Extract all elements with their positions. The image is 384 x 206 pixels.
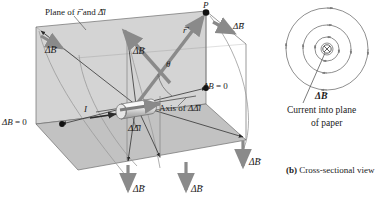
dB-cross-section-label: Δ→ΔBB <box>315 92 327 102</box>
panel-b-caption-tag: (b) <box>286 165 297 175</box>
dl-label: Δ→Δl <box>128 124 141 133</box>
zero-point-left-dot <box>59 121 65 127</box>
dB-bottom-left-label: Δ→B <box>133 185 144 195</box>
plane-label-text: Plane of <box>45 7 75 17</box>
dB-right-label: Δ→B <box>249 158 260 168</box>
current-into-page-icon <box>323 45 331 53</box>
current-label: I <box>84 105 87 114</box>
dB-arrow-at-P <box>213 22 234 33</box>
axis-label-text: Axis of <box>159 103 186 113</box>
dB-bottom-center-label: Δ→B <box>191 185 202 195</box>
point-P-label: P <box>203 1 209 10</box>
plane-of-r-and-dl-label: Plane of →r and →Δl <box>45 8 106 17</box>
point-P-dot <box>203 9 210 16</box>
plane-label-and: and <box>83 7 96 17</box>
dB-center-label: Δ→B <box>133 47 144 57</box>
panel-b-caption-text: Cross-sectional view <box>299 165 374 175</box>
current-into-plane-line1: Current into plane <box>287 106 356 116</box>
zero-field-left-label: ΔB = 0 <box>2 118 27 127</box>
dB-left-label: Δ→B <box>45 46 56 56</box>
axis-of-dl-label: Axis of Δ→Δl <box>159 104 201 113</box>
current-into-plane-line2: of paper <box>311 119 342 129</box>
theta-label: θ <box>166 60 170 69</box>
dB-top-right-label: Δ→ΔBB <box>233 22 244 31</box>
r-vector-label: →r <box>183 26 187 35</box>
panel-b-caption: (b) Cross-sectional view <box>286 166 374 175</box>
zero-field-right-label: ΔB = 0 <box>203 82 228 91</box>
